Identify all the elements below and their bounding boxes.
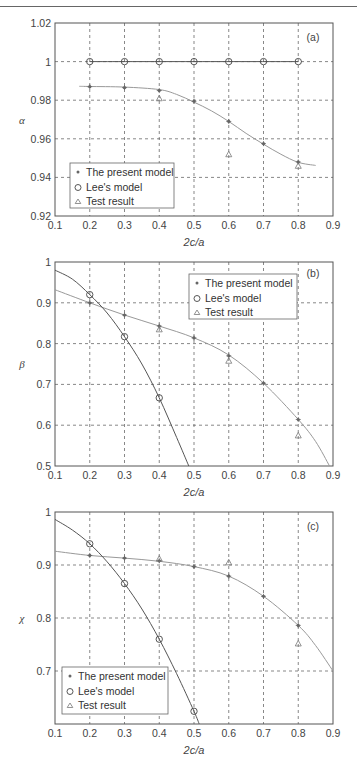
x-tick-label: 0.6: [221, 469, 236, 481]
asterisk-marker-icon: [122, 85, 127, 90]
asterisk-marker-icon: [196, 282, 199, 285]
asterisk-marker-icon: [87, 300, 92, 305]
y-tick-label: 1: [45, 256, 51, 268]
chart-alpha: 0.10.20.30.40.50.60.70.80.90.920.940.960…: [19, 17, 340, 248]
y-tick-label: 0.96: [31, 133, 52, 145]
x-tick-label: 0.8: [291, 469, 306, 481]
legend-label: The present model: [86, 166, 174, 178]
series-lee-model: [55, 270, 189, 466]
y-tick-label: 0.5: [36, 460, 51, 472]
y-tick-label: 1.02: [31, 17, 52, 29]
legend-label: Test result: [86, 195, 134, 207]
legend-item-present-model: The present model: [69, 670, 166, 682]
y-tick-label: 0.92: [31, 210, 52, 222]
legend-label: Lee's model: [78, 685, 134, 697]
y-axis-label: α: [19, 114, 25, 126]
x-tick-label: 0.3: [117, 219, 132, 231]
y-tick-label: 1: [45, 56, 51, 68]
asterisk-marker-icon: [69, 675, 72, 678]
x-tick-label: 0.5: [187, 469, 202, 481]
x-tick-label: 0.2: [82, 727, 97, 739]
asterisk-marker-icon: [122, 556, 127, 561]
x-tick-label: 0.6: [221, 727, 236, 739]
x-tick-label: 0.2: [82, 219, 97, 231]
x-tick-label: 0.9: [326, 469, 341, 481]
y-tick-label: 0.7: [36, 378, 51, 390]
chart-alpha: 0.10.20.30.40.50.60.70.80.90.920.940.960…: [0, 0, 357, 767]
y-axis-label: χ: [19, 612, 26, 624]
x-tick-label: 0.7: [256, 219, 271, 231]
x-tick-label: 0.6: [221, 219, 236, 231]
asterisk-marker-icon: [77, 171, 80, 174]
legend-label: Test result: [205, 306, 253, 318]
x-tick-label: 0.2: [82, 469, 97, 481]
y-tick-label: 0.98: [31, 94, 52, 106]
x-axis-label: 2c/a: [183, 486, 205, 498]
panel-label: (a): [307, 31, 320, 43]
x-tick-label: 0.8: [291, 219, 306, 231]
asterisk-marker-icon: [192, 335, 197, 340]
series-present-model: [55, 551, 333, 671]
y-tick-label: 0.8: [36, 338, 51, 350]
x-tick-label: 0.1: [48, 727, 63, 739]
x-tick-label: 0.3: [117, 469, 132, 481]
legend-label: Test result: [78, 699, 126, 711]
x-tick-label: 0.8: [291, 727, 306, 739]
y-tick-label: 0.9: [36, 559, 51, 571]
x-tick-label: 0.5: [187, 727, 202, 739]
y-tick-label: 0.94: [31, 171, 52, 183]
x-tick-label: 0.7: [256, 469, 271, 481]
x-axis-label: 2c/a: [183, 236, 205, 248]
x-tick-label: 0.4: [152, 469, 167, 481]
panel-label: (b): [307, 267, 320, 279]
x-tick-label: 0.9: [326, 219, 341, 231]
legend-item-lee-model: Lee's model: [75, 181, 142, 193]
curve: [79, 86, 315, 165]
legend-label: The present model: [205, 277, 293, 289]
asterisk-marker-icon: [296, 159, 301, 164]
series-present-model: [79, 84, 315, 165]
x-tick-label: 0.5: [187, 219, 202, 231]
legend-label: Lee's model: [86, 181, 142, 193]
legend: The present modelLee's modelTest result: [189, 274, 297, 319]
x-tick-label: 0.9: [326, 727, 341, 739]
legend-label: The present model: [78, 670, 166, 682]
y-tick-label: 0.7: [36, 665, 51, 677]
legend-item-present-model: The present model: [196, 277, 293, 289]
legend-item-present-model: The present model: [77, 166, 174, 178]
x-tick-label: 0.4: [152, 727, 167, 739]
x-tick-label: 0.3: [117, 727, 132, 739]
legend-item-lee-model: Lee's model: [194, 292, 261, 304]
y-tick-label: 0.6: [36, 419, 51, 431]
y-axis-label: β: [18, 358, 25, 370]
asterisk-marker-icon: [122, 313, 127, 318]
x-tick-label: 0.7: [256, 727, 271, 739]
asterisk-marker-icon: [87, 84, 92, 89]
legend: The present modelLee's modelTest result: [62, 667, 168, 714]
legend-item-lee-model: Lee's model: [67, 685, 134, 697]
asterisk-marker-icon: [226, 574, 231, 579]
panel-label: (c): [307, 520, 319, 532]
asterisk-marker-icon: [87, 553, 92, 558]
asterisk-marker-icon: [157, 88, 162, 93]
y-tick-label: 0.8: [36, 612, 51, 624]
curve: [55, 270, 189, 466]
x-tick-label: 0.4: [152, 219, 167, 231]
chart-beta: 0.10.20.30.40.50.60.70.80.90.50.60.70.80…: [18, 256, 340, 498]
x-axis-label: 2c/a: [183, 744, 205, 756]
curve: [55, 551, 333, 671]
legend-label: Lee's model: [205, 292, 261, 304]
y-tick-label: 1: [45, 506, 51, 518]
y-tick-label: 0.9: [36, 297, 51, 309]
chart-chi: 0.10.20.30.40.50.60.70.80.90.70.80.912c/…: [19, 506, 341, 756]
legend: The present modelLee's modelTest result: [70, 163, 174, 208]
